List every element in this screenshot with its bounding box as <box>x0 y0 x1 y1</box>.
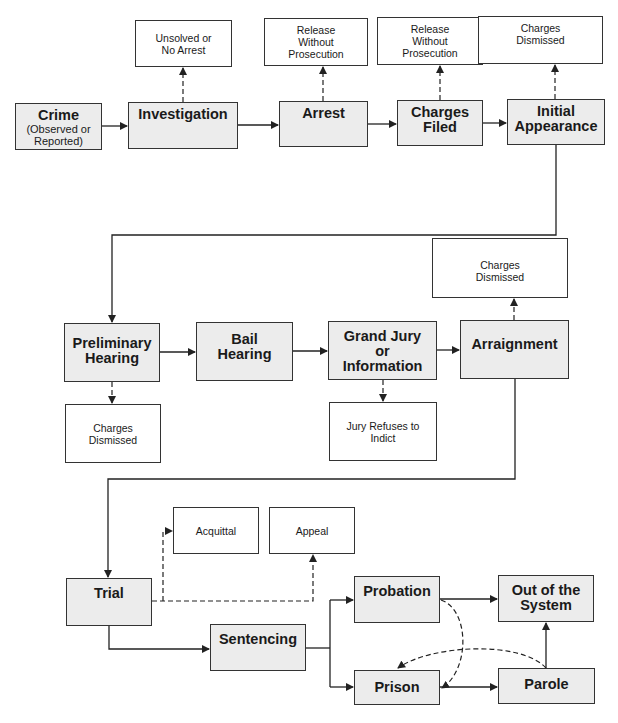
jury-refuses-label-2: Indict <box>370 432 395 444</box>
step-arrest: Arrest <box>279 101 368 147</box>
release-label-3: Prosecution <box>288 48 343 60</box>
sentencing-label: Sentencing <box>219 632 297 647</box>
crime-label: Crime <box>38 108 79 123</box>
bail-label-2: Hearing <box>218 347 272 362</box>
out-label-1: Out of the <box>512 583 580 598</box>
outcome-charges-dismissed-2: Charges Dismissed <box>432 238 568 298</box>
probation-label: Probation <box>363 584 431 599</box>
outcome-charges-dismissed-1: Charges Dismissed <box>478 16 603 64</box>
step-probation: Probation <box>354 576 440 623</box>
outcome-charges-dismissed-3: Charges Dismissed <box>65 404 161 463</box>
step-initial-appearance: Initial Appearance <box>507 99 605 145</box>
step-arraignment: Arraignment <box>460 320 569 379</box>
charges-filed-label-2: Filed <box>423 120 457 135</box>
step-prison: Prison <box>354 670 440 705</box>
grand-jury-label-2: or <box>375 344 390 359</box>
arraignment-label: Arraignment <box>471 337 557 352</box>
prison-label: Prison <box>374 680 419 695</box>
step-charges-filed: Charges Filed <box>397 100 483 146</box>
outcome-appeal: Appeal <box>269 507 355 554</box>
outcome-release-1: Release Without Prosecution <box>264 18 368 66</box>
dismissed-label-2: Dismissed <box>516 34 564 46</box>
dismissed-label-1: Charges <box>521 22 561 34</box>
step-grand-jury: Grand Jury or Information <box>328 321 437 380</box>
dismissed-label-2: Dismissed <box>89 434 137 446</box>
release-label-1: Release <box>297 24 336 36</box>
step-preliminary-hearing: Preliminary Hearing <box>64 323 160 382</box>
preliminary-label-2: Hearing <box>85 351 139 366</box>
grand-jury-label-1: Grand Jury <box>344 329 421 344</box>
dismissed-label-2: Dismissed <box>476 271 524 283</box>
criminal-justice-flowchart: Crime (Observed or Reported) Investigati… <box>0 0 618 723</box>
crime-sublabel-1: (Observed or <box>26 123 90 135</box>
unsolved-label-2: No Arrest <box>162 44 206 56</box>
outcome-jury-refuses: Jury Refuses to Indict <box>329 402 437 461</box>
investigation-label: Investigation <box>138 107 227 122</box>
jury-refuses-label-1: Jury Refuses to <box>347 420 420 432</box>
arrest-label: Arrest <box>302 106 345 121</box>
step-bail-hearing: Bail Hearing <box>196 322 293 381</box>
dismissed-label-1: Charges <box>480 259 520 271</box>
outcome-acquittal: Acquittal <box>173 507 259 554</box>
crime-sublabel-2: Reported) <box>34 135 83 147</box>
release-label-2: Without <box>412 35 448 47</box>
release-label-2: Without <box>298 36 334 48</box>
appeal-label: Appeal <box>296 525 329 537</box>
parole-label: Parole <box>524 677 568 692</box>
step-investigation: Investigation <box>128 102 238 149</box>
step-out-of-system: Out of the System <box>498 575 594 622</box>
unsolved-label-1: Unsolved or <box>155 32 211 44</box>
out-label-2: System <box>520 598 572 613</box>
release-label-3: Prosecution <box>402 47 457 59</box>
acquittal-label: Acquittal <box>196 525 236 537</box>
charges-filed-label-1: Charges <box>411 105 469 120</box>
release-label-1: Release <box>411 23 450 35</box>
step-parole: Parole <box>498 668 595 704</box>
trial-label: Trial <box>94 586 124 601</box>
grand-jury-label-3: Information <box>343 359 423 374</box>
bail-label-1: Bail <box>231 332 258 347</box>
step-trial: Trial <box>66 578 152 626</box>
outcome-release-2: Release Without Prosecution <box>377 17 483 65</box>
initial-appearance-label-1: Initial <box>537 104 575 119</box>
dismissed-label-1: Charges <box>93 422 133 434</box>
outcome-unsolved: Unsolved or No Arrest <box>135 20 232 67</box>
preliminary-label-1: Preliminary <box>73 336 152 351</box>
initial-appearance-label-2: Appearance <box>514 119 597 134</box>
step-crime: Crime (Observed or Reported) <box>15 103 102 150</box>
step-sentencing: Sentencing <box>210 624 306 671</box>
